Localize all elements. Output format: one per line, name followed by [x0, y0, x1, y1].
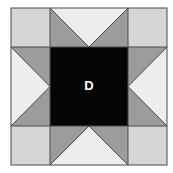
corner-square-bottom-right	[128, 126, 167, 165]
corner-square-top-right	[128, 8, 167, 47]
corner-square-top-left	[11, 8, 50, 47]
center-label: D	[79, 77, 99, 95]
corner-square-bottom-left	[11, 126, 50, 165]
